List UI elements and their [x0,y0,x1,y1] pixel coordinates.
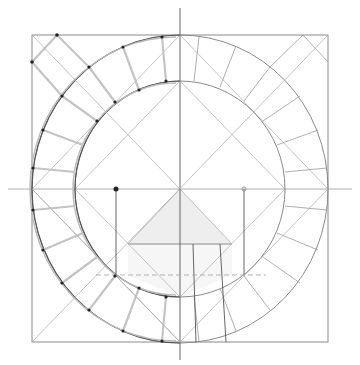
point-square-left [30,60,34,64]
point-left-drop [114,187,119,192]
ring-construction-diagram [0,0,360,365]
radial-divisions-right [194,35,328,341]
point-square-top [55,33,59,37]
radial-divisions-left [32,35,166,341]
